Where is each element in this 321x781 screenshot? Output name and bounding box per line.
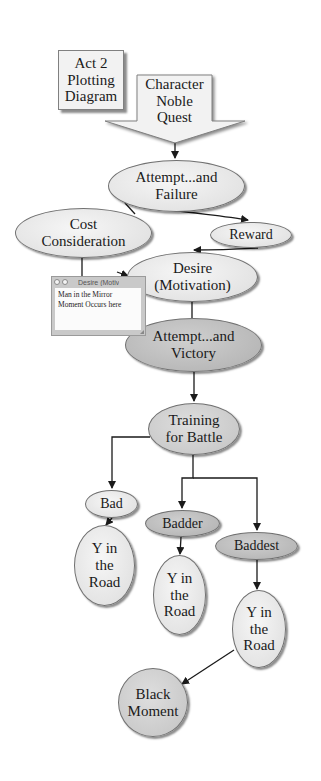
node-desire-motivation[interactable]: Desire (Motivation) [127,252,258,302]
note-title-bar[interactable]: Desire (Motiv [52,277,145,287]
note-window[interactable]: Desire (Motiv Man in the Mirror Moment O… [51,276,146,336]
node-label: Attempt...and Victory [152,328,234,362]
node-cost-consideration[interactable]: Cost Consideration [15,208,152,258]
node-label: Y in the Road [89,540,121,590]
node-y-in-road-3[interactable]: Y in the Road [232,590,286,668]
diagram-title: Act 2 Plotting Diagram [65,55,117,105]
node-training-for-battle[interactable]: Training for Battle [148,403,240,455]
node-label: Cost Consideration [41,216,125,250]
edge-training-to-bad [112,437,150,488]
node-label: Badder [162,516,202,532]
note-title: Desire (Motiv [78,279,119,286]
edge-training-to-badder [182,455,193,508]
edge-bad-to-road1 [106,518,112,525]
node-label: Desire (Motivation) [154,260,231,294]
edge-road3-to-black-moment [182,650,234,684]
note-minimize-icon[interactable] [62,279,68,285]
node-label: Bad [100,496,123,512]
node-y-in-road-1[interactable]: Y in the Road [74,525,135,606]
node-label: Black Moment [128,686,179,720]
node-label: Y in the Road [164,570,196,620]
note-body[interactable]: Man in the Mirror Moment Occurs here [55,288,141,330]
node-attempt-failure[interactable]: Attempt...and Failure [108,160,245,212]
node-badder[interactable]: Badder [145,510,220,537]
edge-badder-to-road2 [180,537,181,554]
node-label: Training for Battle [165,412,222,446]
node-baddest[interactable]: Baddest [215,532,298,560]
node-label: Baddest [234,538,279,554]
edge-reward-to-desire [194,248,258,250]
note-close-icon[interactable] [54,279,60,285]
node-bad[interactable]: Bad [85,490,138,518]
node-reward[interactable]: Reward [210,222,292,248]
node-character-noble-quest[interactable]: Character Noble Quest [137,76,212,126]
node-label: Attempt...and Failure [135,169,217,203]
node-black-moment[interactable]: Black Moment [118,668,188,737]
node-y-in-road-2[interactable]: Y in the Road [153,555,206,635]
diagram-title-box[interactable]: Act 2 Plotting Diagram [58,50,124,110]
resize-grip-icon[interactable] [140,330,144,334]
node-label: Reward [229,227,273,243]
node-label: Character Noble Quest [145,76,203,126]
node-label: Y in the Road [243,604,275,654]
diagram-canvas: Act 2 Plotting Diagram Character Noble Q… [0,0,321,781]
